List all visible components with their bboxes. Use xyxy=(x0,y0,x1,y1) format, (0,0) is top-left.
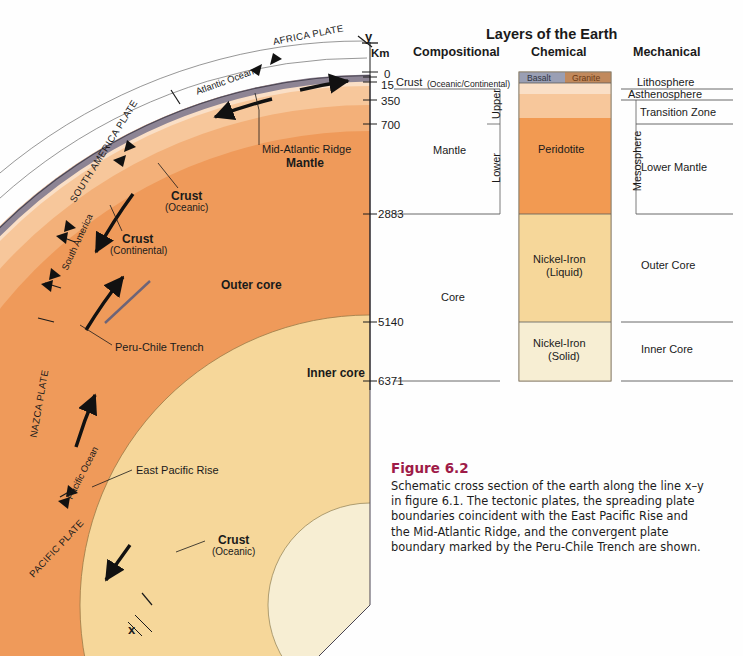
compositional-mantle-label: Mantle xyxy=(433,144,466,156)
depth-value-5140: 5140 xyxy=(378,316,404,328)
mechanical-lithosphere-label: Lithosphere xyxy=(637,76,695,88)
column-header-chemical: Chemical xyxy=(531,45,587,59)
depth-value-15: 15 xyxy=(381,79,394,91)
axis-letter-x: x xyxy=(128,622,135,637)
depth-value-700: 700 xyxy=(381,119,400,131)
diagram-mid-atlantic-ridge-label: Mid-Atlantic Ridge xyxy=(262,143,351,155)
mechanical-mesosphere-label: Mesosphere xyxy=(631,116,643,206)
axis-letter-y: y xyxy=(365,29,372,44)
column-header-mechanical: Mechanical xyxy=(633,45,700,59)
compositional-upper-label: Upper xyxy=(490,84,502,124)
figure-number: Figure 6.2 xyxy=(391,460,709,476)
diagram-crust-oceanic-top-label: Crust xyxy=(171,189,202,203)
diagram-crust-continental-label: Crust xyxy=(122,232,153,246)
figure-canvas: Layers of the Earth Compositional Chemic… xyxy=(0,0,743,656)
diagram-outer-core-label: Outer core xyxy=(221,278,282,292)
figure-caption-text: Schematic cross section of the earth alo… xyxy=(391,479,709,555)
depth-value-6371: 6371 xyxy=(378,375,404,387)
depth-value-2883: 2883 xyxy=(378,208,404,220)
diagram-mantle-label: Mantle xyxy=(286,156,324,170)
chemical-inner-core-label-1: Nickel-Iron xyxy=(533,337,586,349)
chemical-peridotite-label: Peridotite xyxy=(538,143,584,155)
diagram-crust-oceanic-bottom-label: Crust xyxy=(218,533,249,547)
mechanical-asthenosphere-label: Asthenosphere xyxy=(628,88,702,100)
diagram-crust-oceanic-top-note: (Oceanic) xyxy=(165,202,208,213)
figure-caption: Figure 6.2 Schematic cross section of th… xyxy=(391,460,709,555)
compositional-lower-label: Lower xyxy=(490,142,502,194)
diagram-inner-core-label: Inner core xyxy=(307,366,365,380)
panel-title: Layers of the Earth xyxy=(486,26,617,42)
diagram-east-pacific-rise-label: East Pacific Rise xyxy=(136,464,219,476)
chemical-outer-core-label-1: Nickel-Iron xyxy=(533,253,586,265)
diagram-peru-chile-trench-label: Peru-Chile Trench xyxy=(115,341,204,353)
compositional-core-label: Core xyxy=(441,291,465,303)
mechanical-transition-zone-label: Transition Zone xyxy=(640,106,716,118)
chemical-column-fills xyxy=(519,72,611,381)
mechanical-outer-core-label: Outer Core xyxy=(641,259,695,271)
chemical-outer-core-label-2: (Liquid) xyxy=(546,266,583,278)
diagram-crust-continental-note: (Continental) xyxy=(110,245,167,256)
depth-value-350: 350 xyxy=(381,95,400,107)
mechanical-inner-core-label: Inner Core xyxy=(641,343,693,355)
chemical-inner-core-label-2: (Solid) xyxy=(548,350,580,362)
depth-unit-header: Km xyxy=(371,47,390,59)
diagram-crust-oceanic-bottom-note: (Oceanic) xyxy=(212,546,255,557)
mechanical-lower-mantle-label: Lower Mantle xyxy=(641,161,707,173)
compositional-crust-label: Crust xyxy=(396,76,422,88)
column-header-compositional: Compositional xyxy=(413,45,500,59)
chemical-granite-label: Granite xyxy=(572,73,600,83)
chemical-basalt-label: Basalt xyxy=(527,73,551,83)
